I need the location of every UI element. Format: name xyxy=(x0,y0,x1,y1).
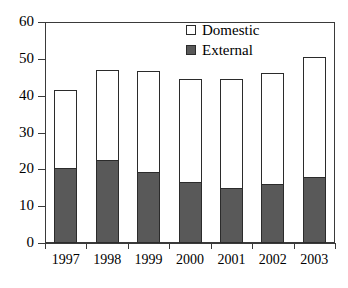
bar-segment-domestic xyxy=(303,57,326,178)
stacked-bar-chart: 0102030405060 19971998199920002001200220… xyxy=(0,0,348,288)
x-axis-tick-labels: 1997199819992000200120022003 xyxy=(0,252,348,276)
x-axis-tick xyxy=(169,243,170,249)
x-axis-tick xyxy=(294,243,295,249)
legend-item-external: External xyxy=(186,40,260,60)
bar-segment-external xyxy=(54,168,77,243)
x-axis-tick xyxy=(335,243,336,249)
bar-segment-domestic xyxy=(54,90,77,169)
bar-segment-domestic xyxy=(96,70,119,161)
bar-column xyxy=(96,70,119,243)
bar-segment-domestic xyxy=(261,73,284,185)
bar-column xyxy=(303,57,326,243)
bar-segment-external xyxy=(261,184,284,243)
bar-column xyxy=(54,90,77,243)
bar-column xyxy=(220,79,243,243)
bar-segment-external xyxy=(179,182,202,243)
legend-label-domestic: Domestic xyxy=(202,20,260,40)
filled-square-icon xyxy=(186,45,196,55)
bar-segment-domestic xyxy=(220,79,243,189)
bar-segment-domestic xyxy=(179,79,202,183)
bar-column xyxy=(261,73,284,243)
x-axis-tick xyxy=(252,243,253,249)
x-axis-tick xyxy=(45,243,46,249)
bar-segment-external xyxy=(303,177,326,243)
bar-segment-external xyxy=(96,160,119,243)
x-axis-tick xyxy=(211,243,212,249)
bar-column xyxy=(137,71,160,243)
legend-label-external: External xyxy=(202,40,253,60)
x-axis-tick-label: 2003 xyxy=(290,252,338,268)
bar-column xyxy=(179,79,202,243)
x-axis-tick xyxy=(128,243,129,249)
legend-item-domestic: Domestic xyxy=(186,20,260,40)
bar-series-container xyxy=(0,0,348,288)
bar-segment-external xyxy=(220,188,243,243)
chart-legend: Domestic External xyxy=(186,20,260,60)
x-axis-tick xyxy=(86,243,87,249)
bar-segment-domestic xyxy=(137,71,160,173)
hollow-square-icon xyxy=(186,25,196,35)
bar-segment-external xyxy=(137,172,160,243)
